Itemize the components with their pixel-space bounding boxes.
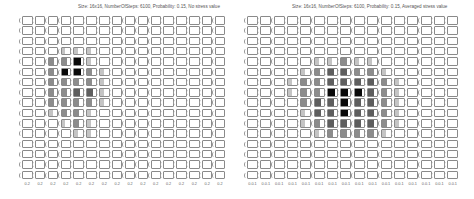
grid-cell xyxy=(340,150,351,159)
grid-cell xyxy=(35,16,46,25)
grid-cell xyxy=(421,119,432,128)
grid-cell xyxy=(202,16,213,25)
x-tick-label: 0.0.1 xyxy=(353,182,366,186)
x-tick-label: 0.0.1 xyxy=(380,182,393,186)
grid-cell xyxy=(421,150,432,159)
grid-cell xyxy=(314,68,325,77)
grid-cell xyxy=(407,119,418,128)
grid-cell xyxy=(394,160,405,169)
grid-cell xyxy=(274,150,285,159)
grid-cell xyxy=(202,109,213,118)
grid-cell xyxy=(394,37,405,46)
grid-cell xyxy=(340,78,351,87)
cell-fill xyxy=(395,79,399,86)
grid-cell xyxy=(421,47,432,56)
cell-fill xyxy=(87,79,92,86)
grid-cell xyxy=(354,119,365,128)
grid-cell xyxy=(202,47,213,56)
grid-cell xyxy=(327,98,338,107)
grid-cell xyxy=(340,160,351,169)
grid-cell xyxy=(340,88,351,97)
grid-cell xyxy=(260,78,271,87)
cell-fill xyxy=(315,130,319,137)
grid-cell xyxy=(260,129,271,138)
cell-fill xyxy=(87,130,91,137)
grid-cell xyxy=(202,119,213,128)
grid-cell xyxy=(287,119,298,128)
grid-cell xyxy=(138,47,149,56)
grid-cell xyxy=(125,16,136,25)
grid-cell xyxy=(260,119,271,128)
grid-cell xyxy=(354,47,365,56)
grid-cell xyxy=(394,68,405,77)
cell-fill xyxy=(62,79,67,86)
grid-cell xyxy=(260,68,271,77)
grid-cell xyxy=(189,129,200,138)
grid-cell xyxy=(189,26,200,35)
grid-cell xyxy=(215,68,226,77)
x-tick-label: 0.0.1 xyxy=(326,182,339,186)
grid-cell xyxy=(407,140,418,149)
grid-cell xyxy=(48,68,59,77)
grid-cell xyxy=(260,171,271,180)
grid-cell xyxy=(447,26,458,35)
grid-cell xyxy=(35,109,46,118)
grid-cell xyxy=(35,26,46,35)
grid-cell xyxy=(327,150,338,159)
grid-cell xyxy=(314,150,325,159)
grid-cell xyxy=(327,68,338,77)
cell-fill xyxy=(74,48,78,55)
cell-fill xyxy=(49,79,54,86)
cell-fill xyxy=(62,89,67,96)
grid-cell xyxy=(287,47,298,56)
grid-cell xyxy=(381,171,392,180)
grid-cell xyxy=(434,109,445,118)
grid-cell xyxy=(340,57,351,66)
cell-fill xyxy=(288,79,292,86)
grid-cell xyxy=(447,78,458,87)
grid-cell xyxy=(407,171,418,180)
grid-cell xyxy=(300,68,311,77)
grid-cell xyxy=(287,140,298,149)
grid-cell xyxy=(48,150,59,159)
grid-cell xyxy=(247,16,258,25)
grid-cell xyxy=(274,119,285,128)
grid-cell xyxy=(112,129,123,138)
grid-cell xyxy=(22,57,33,66)
grid-cell xyxy=(260,26,271,35)
grid-cell xyxy=(22,109,33,118)
grid-cell xyxy=(260,37,271,46)
grid-cell xyxy=(138,78,149,87)
grid-cell xyxy=(434,57,445,66)
grid-cell xyxy=(35,150,46,159)
grid-cell xyxy=(138,68,149,77)
grid-cell xyxy=(22,78,33,87)
cell-fill xyxy=(49,89,54,96)
grid-cell xyxy=(189,78,200,87)
grid-cell xyxy=(354,171,365,180)
x-tick-label: 0.2 xyxy=(162,182,175,186)
cell-fill xyxy=(301,120,305,127)
grid-cell xyxy=(202,78,213,87)
cell-fill xyxy=(341,69,347,76)
grid-cell xyxy=(327,26,338,35)
grid-cell xyxy=(367,119,378,128)
cell-fill xyxy=(328,130,333,137)
x-tick-label: 0.0.1 xyxy=(339,182,352,186)
grid-cell xyxy=(300,57,311,66)
grid-cell xyxy=(274,88,285,97)
grid-cell xyxy=(22,68,33,77)
grid-cell xyxy=(327,160,338,169)
grid-cell xyxy=(287,68,298,77)
grid-cell xyxy=(394,98,405,107)
grid-cell xyxy=(327,129,338,138)
grid-cell xyxy=(48,78,59,87)
grid-cell xyxy=(287,160,298,169)
grid-cell xyxy=(215,150,226,159)
grid-cell xyxy=(112,16,123,25)
cell-fill xyxy=(341,79,347,86)
grid-cell xyxy=(381,119,392,128)
grid-cell xyxy=(189,171,200,180)
grid-cell xyxy=(314,26,325,35)
cell-fill xyxy=(341,99,348,106)
